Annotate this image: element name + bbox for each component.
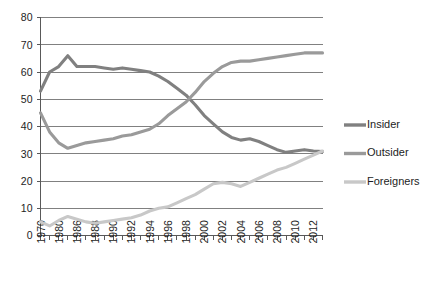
- xtick-label-1992: 1992: [125, 220, 137, 244]
- xtick-label-2012: 2012: [307, 220, 319, 244]
- ytick-label-40: 40: [21, 120, 33, 132]
- xtick-label-1996: 1996: [162, 220, 174, 244]
- series-group: [41, 53, 323, 226]
- xtick-label-1990: 1990: [107, 220, 119, 244]
- xaxis-group: 1970198019861988199019921994199619982000…: [35, 220, 323, 244]
- xtick-label-2004: 2004: [235, 220, 247, 244]
- xtick-label-1998: 1998: [180, 220, 192, 244]
- legend: InsiderOutsiderForeigners: [344, 118, 420, 187]
- xtick-label-2008: 2008: [271, 220, 283, 244]
- ytick-label-50: 50: [21, 93, 33, 105]
- legend-label-insider: Insider: [367, 118, 400, 130]
- ytick-label-20: 20: [21, 175, 33, 187]
- ytick-label-70: 70: [21, 39, 33, 51]
- xtick-label-1994: 1994: [144, 220, 156, 244]
- ytick-label-60: 60: [21, 66, 33, 78]
- xtick-label-2010: 2010: [289, 220, 301, 244]
- ytick-label-30: 30: [21, 148, 33, 160]
- line-chart-figure: 0102030405060708019701980198619881990199…: [0, 0, 436, 283]
- ytick-label-0: 0: [27, 229, 33, 241]
- legend-label-foreigners: Foreigners: [367, 175, 420, 187]
- ytick-label-80: 80: [21, 11, 33, 23]
- ytick-label-10: 10: [21, 202, 33, 214]
- xtick-label-2000: 2000: [198, 220, 210, 244]
- xtick-label-2002: 2002: [216, 220, 228, 244]
- legend-label-outsider: Outsider: [367, 146, 409, 158]
- chart-canvas: 0102030405060708019701980198619881990199…: [0, 0, 436, 283]
- xtick-label-2006: 2006: [253, 220, 265, 244]
- series-line-foreigners: [41, 151, 323, 226]
- xtick-label-1986: 1986: [71, 220, 83, 244]
